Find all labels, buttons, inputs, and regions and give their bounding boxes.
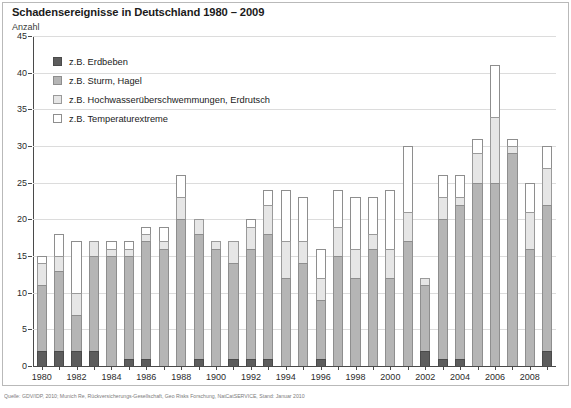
bar-segment-1987-s2 bbox=[159, 241, 169, 248]
x-tick-label-1984: 1984 bbox=[101, 372, 121, 382]
bar-segment-2000-s3 bbox=[385, 190, 395, 249]
bar-1982[interactable] bbox=[71, 241, 81, 366]
bar-1991[interactable] bbox=[228, 241, 238, 366]
x-tick-label-1992: 1992 bbox=[241, 372, 261, 382]
bar-2004[interactable] bbox=[455, 175, 465, 366]
bar-segment-2009-s1 bbox=[542, 205, 552, 352]
page-title: Schadensereignisse in Deutschland 1980 –… bbox=[12, 6, 264, 18]
bar-segment-2006-s3 bbox=[490, 65, 500, 116]
bar-2005[interactable] bbox=[472, 139, 482, 366]
x-tick-mark-2001 bbox=[408, 366, 409, 370]
x-tick-label-2006: 2006 bbox=[485, 372, 505, 382]
bar-1998[interactable] bbox=[350, 197, 360, 366]
bar-segment-1980-s1 bbox=[37, 285, 47, 351]
bar-1985[interactable] bbox=[124, 241, 134, 366]
x-tick-label-1996: 1996 bbox=[311, 372, 331, 382]
bar-segment-2001-s1 bbox=[403, 241, 413, 366]
bar-segment-1983-s0 bbox=[89, 351, 99, 366]
bar-segment-2009-s0 bbox=[542, 351, 552, 366]
legend-label-2: z.B. Hochwasserüberschwemmungen, Erdruts… bbox=[69, 95, 270, 105]
bar-segment-1987-s1 bbox=[159, 249, 169, 366]
y-tick-mark-0 bbox=[28, 366, 32, 367]
bar-1995[interactable] bbox=[298, 197, 308, 366]
bar-segment-2009-s2 bbox=[542, 168, 552, 205]
legend-item-2[interactable]: z.B. Hochwasserüberschwemmungen, Erdruts… bbox=[53, 90, 270, 109]
x-tick-label-1980: 1980 bbox=[32, 372, 52, 382]
bar-2001[interactable] bbox=[403, 146, 413, 366]
bar-segment-1993-s0 bbox=[263, 359, 273, 366]
bar-segment-2009-s3 bbox=[542, 146, 552, 168]
bar-2000[interactable] bbox=[385, 190, 395, 366]
bar-segment-1982-s2 bbox=[71, 293, 81, 315]
bar-1996[interactable] bbox=[316, 249, 326, 366]
y-tick-mark-30 bbox=[28, 146, 32, 147]
y-tick-mark-10 bbox=[28, 293, 32, 294]
bar-2003[interactable] bbox=[438, 175, 448, 366]
x-tick-mark-2005 bbox=[478, 366, 479, 370]
bar-1994[interactable] bbox=[281, 190, 291, 366]
legend-item-1[interactable]: z.B. Sturm, Hagel bbox=[53, 71, 270, 90]
bar-segment-1993-s2 bbox=[263, 205, 273, 234]
bar-1981[interactable] bbox=[54, 234, 64, 366]
bar-2006[interactable] bbox=[490, 65, 500, 366]
bar-1992[interactable] bbox=[246, 219, 256, 366]
bar-2008[interactable] bbox=[525, 183, 535, 366]
bar-segment-2000-s2 bbox=[385, 249, 395, 278]
x-tick-label-1994: 1994 bbox=[276, 372, 296, 382]
bar-2007[interactable] bbox=[507, 139, 517, 366]
bar-1997[interactable] bbox=[333, 190, 343, 366]
bar-segment-2002-s1 bbox=[420, 285, 430, 351]
bar-segment-2002-s0 bbox=[420, 351, 430, 366]
legend-swatch-temperaturextreme bbox=[53, 114, 62, 123]
bar-segment-1988-s1 bbox=[176, 219, 186, 366]
bar-segment-2007-s3 bbox=[507, 139, 517, 146]
bar-1989[interactable] bbox=[194, 219, 204, 366]
bar-segment-1997-s2 bbox=[333, 227, 343, 256]
bar-1980[interactable] bbox=[37, 256, 47, 366]
x-tick-mark-1990 bbox=[216, 366, 217, 370]
bar-segment-1997-s1 bbox=[333, 256, 343, 366]
bar-1984[interactable] bbox=[106, 241, 116, 366]
bar-1988[interactable] bbox=[176, 175, 186, 366]
x-tick-label-1982: 1982 bbox=[67, 372, 87, 382]
x-tick-mark-1992 bbox=[251, 366, 252, 370]
x-tick-mark-1997 bbox=[338, 366, 339, 370]
bar-segment-1987-s3 bbox=[159, 227, 169, 242]
y-tick-mark-15 bbox=[28, 256, 32, 257]
bar-1990[interactable] bbox=[211, 241, 221, 366]
bar-segment-1989-s1 bbox=[194, 234, 204, 359]
bar-segment-1992-s2 bbox=[246, 227, 256, 249]
bar-1986[interactable] bbox=[141, 227, 151, 366]
bar-segment-1986-s2 bbox=[141, 234, 151, 241]
bar-segment-1994-s2 bbox=[281, 241, 291, 278]
bar-1987[interactable] bbox=[159, 227, 169, 366]
x-tick-mark-1996 bbox=[321, 366, 322, 370]
bar-segment-1984-s3 bbox=[106, 241, 116, 248]
legend-item-3[interactable]: z.B. Temperaturextreme bbox=[53, 109, 270, 128]
x-tick-mark-1985 bbox=[129, 366, 130, 370]
bar-2002[interactable] bbox=[420, 278, 430, 366]
bar-segment-2002-s2 bbox=[420, 278, 430, 285]
bar-segment-1980-s0 bbox=[37, 351, 47, 366]
x-tick-label-2002: 2002 bbox=[415, 372, 435, 382]
bar-segment-2006-s1 bbox=[490, 183, 500, 366]
bar-2009[interactable] bbox=[542, 146, 552, 366]
bar-segment-1981-s3 bbox=[54, 234, 64, 256]
bar-segment-2004-s0 bbox=[455, 359, 465, 366]
bar-segment-1991-s1 bbox=[228, 263, 238, 358]
y-tick-mark-45 bbox=[28, 36, 32, 37]
x-tick-mark-2008 bbox=[530, 366, 531, 370]
bar-1983[interactable] bbox=[89, 241, 99, 366]
x-tick-mark-1991 bbox=[233, 366, 234, 370]
bar-segment-1985-s2 bbox=[124, 249, 134, 256]
x-tick-mark-1986 bbox=[146, 366, 147, 370]
legend-item-0[interactable]: z.B. Erdbeben bbox=[53, 52, 270, 71]
y-tick-label-0: 0 bbox=[22, 361, 27, 371]
bar-segment-2008-s3 bbox=[525, 183, 535, 212]
bar-1999[interactable] bbox=[368, 197, 378, 366]
bar-segment-1991-s0 bbox=[228, 359, 238, 366]
bar-segment-1994-s3 bbox=[281, 190, 291, 241]
legend-swatch-erdbeben bbox=[53, 57, 62, 66]
bar-segment-1997-s3 bbox=[333, 190, 343, 227]
bar-1993[interactable] bbox=[263, 190, 273, 366]
